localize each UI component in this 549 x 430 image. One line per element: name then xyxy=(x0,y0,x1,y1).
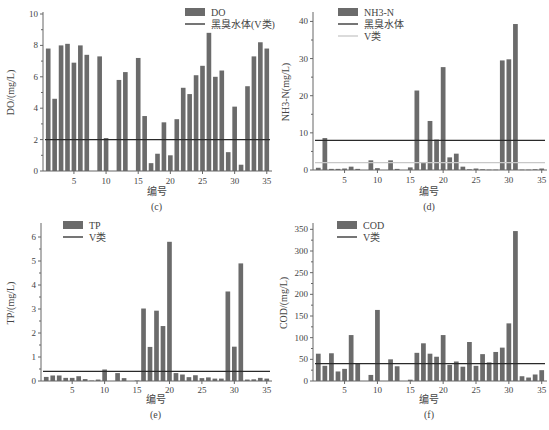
x-tick-label: 35 xyxy=(537,385,547,395)
bar-31 xyxy=(513,231,518,381)
y-tick-label: 0 xyxy=(34,166,39,176)
bar-19 xyxy=(161,326,166,381)
bar-18 xyxy=(154,311,159,381)
legend: CODV类 xyxy=(337,220,384,243)
y-axis-label: TP/(mg/L) xyxy=(5,282,17,325)
bar-5 xyxy=(72,63,77,171)
x-tick-label: 5 xyxy=(72,176,77,186)
bar-1 xyxy=(44,377,49,381)
bar-35 xyxy=(539,370,544,381)
bar-20 xyxy=(441,335,446,381)
legend-label: TP xyxy=(89,220,101,231)
do-bar-chart: 02468105101520253035编号(c)DO/(mg/L)DO黑臭水体… xyxy=(0,0,275,215)
bar-12 xyxy=(388,160,393,170)
y-axis-label: DO/(mg/L) xyxy=(5,70,17,116)
y-tick-label: 200 xyxy=(295,289,309,299)
bar-31 xyxy=(238,263,243,381)
x-axis-label: 编号 xyxy=(419,393,439,405)
legend: NH3-N黑臭水体V类 xyxy=(338,7,404,42)
x-tick-label: 10 xyxy=(373,385,383,395)
x-tick-label: 25 xyxy=(198,176,208,186)
x-tick-label: 10 xyxy=(100,385,110,395)
legend-label: COD xyxy=(363,220,384,231)
bar-31 xyxy=(239,165,244,171)
x-tick-label: 35 xyxy=(262,176,272,186)
bar-21 xyxy=(174,373,179,381)
bar-9 xyxy=(97,56,102,171)
legend-label: NH3-N xyxy=(364,7,394,18)
bar-17 xyxy=(421,343,426,381)
bar-32 xyxy=(520,376,525,381)
y-tick-label: 0 xyxy=(304,165,309,175)
bar-34 xyxy=(533,375,538,382)
bar-5 xyxy=(342,369,347,381)
y-tick-label: 10 xyxy=(299,128,309,138)
bar-4 xyxy=(336,371,341,381)
x-axis-label: 编号 xyxy=(147,185,167,197)
chart-panel-f: 0501001502002503003505101520253035编号(f)C… xyxy=(275,215,549,430)
legend-label: 黑臭水体 xyxy=(364,18,404,30)
bar-22 xyxy=(454,362,459,382)
y-tick-label: 300 xyxy=(295,246,309,256)
bar-22 xyxy=(454,154,459,170)
y-tick-label: 250 xyxy=(295,268,309,278)
y-tick-label: 1 xyxy=(32,352,37,362)
bar-34 xyxy=(258,42,263,171)
bar-12 xyxy=(117,80,122,171)
bar-29 xyxy=(500,60,505,170)
bar-2 xyxy=(52,99,57,171)
bar-15 xyxy=(136,58,141,171)
bar-2 xyxy=(50,375,55,381)
bar-10 xyxy=(104,138,109,171)
bar-19 xyxy=(434,140,439,170)
x-tick-label: 25 xyxy=(472,175,482,185)
bar-30 xyxy=(506,59,511,170)
cod-bar-chart: 0501001502002503003505101520253035编号(f)C… xyxy=(275,215,549,430)
bar-19 xyxy=(162,122,167,171)
x-tick-label: 35 xyxy=(262,385,272,395)
bar-27 xyxy=(213,77,218,171)
x-tick-label: 20 xyxy=(439,175,449,185)
bar-21 xyxy=(447,157,452,170)
bar-19 xyxy=(434,357,439,381)
y-axis-label: COD/(mg/L) xyxy=(278,277,290,329)
x-tick-label: 20 xyxy=(166,176,176,186)
x-tick-label: 5 xyxy=(342,175,347,185)
x-tick-label: 35 xyxy=(537,175,547,185)
x-tick-label: 20 xyxy=(439,385,449,395)
bar-10 xyxy=(375,310,380,381)
bar-16 xyxy=(414,353,419,381)
bar-3 xyxy=(57,375,62,381)
y-tick-label: 350 xyxy=(295,224,309,234)
y-axis-label: NH3-N(mg/L) xyxy=(280,63,292,121)
bar-18 xyxy=(155,154,160,171)
bar-3 xyxy=(329,353,334,381)
panel-label: (d) xyxy=(423,201,435,213)
x-tick-label: 30 xyxy=(230,176,240,186)
y-tick-label: 5 xyxy=(32,256,37,266)
y-tick-label: 50 xyxy=(299,354,309,364)
legend-swatch-bar xyxy=(185,8,205,16)
bar-12 xyxy=(115,373,120,381)
legend-label: DO xyxy=(211,7,225,18)
x-tick-label: 10 xyxy=(373,175,383,185)
bar-9 xyxy=(368,375,373,381)
bar-33 xyxy=(526,378,531,381)
y-tick-label: 40 xyxy=(299,16,309,26)
y-tick-label: 100 xyxy=(295,333,309,343)
y-tick-label: 2 xyxy=(32,328,37,338)
bar-6 xyxy=(78,45,83,171)
bar-25 xyxy=(200,66,205,171)
legend-label: V类 xyxy=(89,231,106,243)
bar-27 xyxy=(487,362,492,381)
bar-33 xyxy=(252,56,257,171)
bar-9 xyxy=(368,160,373,170)
y-tick-label: 3 xyxy=(32,304,37,314)
bar-23 xyxy=(187,377,192,381)
legend-swatch-bar xyxy=(337,221,357,229)
x-tick-label: 20 xyxy=(165,385,175,395)
bar-22 xyxy=(180,375,185,381)
x-tick-label: 30 xyxy=(230,385,240,395)
y-tick-label: 4 xyxy=(34,103,39,113)
bar-24 xyxy=(467,342,472,381)
